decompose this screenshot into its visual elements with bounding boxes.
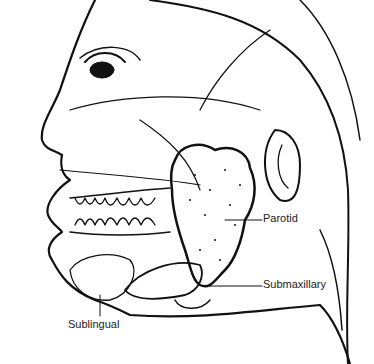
head-illustration bbox=[0, 0, 374, 364]
label-sublingual: Sublingual bbox=[68, 318, 119, 330]
diagram-canvas: Parotid Submaxillary Sublingual bbox=[0, 0, 374, 364]
label-submaxillary: Submaxillary bbox=[263, 278, 326, 290]
label-parotid: Parotid bbox=[263, 212, 298, 224]
